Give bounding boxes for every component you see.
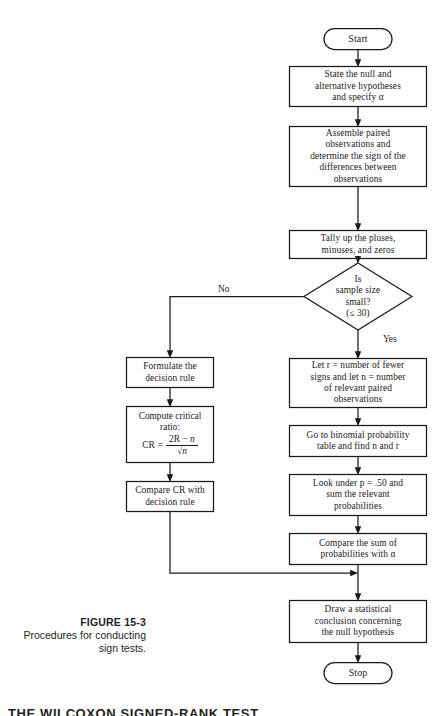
- node-critical-label: Compute critical ratio:: [127, 411, 213, 434]
- node-start-label: Start: [324, 28, 392, 50]
- formula-equals: =: [158, 440, 163, 451]
- node-comparesum-label: Compare the sum of probabilities with α: [290, 534, 426, 564]
- node-lookunder-label: Look under p = .50 and sum the relevant …: [290, 475, 426, 515]
- branch-label-no: No: [218, 284, 229, 294]
- figure-caption: FIGURE 15-3 Procedures for conducting si…: [16, 616, 146, 655]
- section-heading: THE WILCOXON SIGNED-RANK TEST: [8, 707, 438, 716]
- formula-lhs: CR: [142, 440, 155, 451]
- formula-radicand: n: [182, 446, 187, 456]
- formula-numerator-prefix: 2R −: [169, 434, 190, 444]
- formula-numerator: 2R − n: [166, 435, 198, 446]
- branch-label-yes: Yes: [383, 334, 397, 344]
- formula-numerator-var: n: [190, 434, 195, 444]
- node-comparecr-label: Compare CR with decision rule: [127, 482, 213, 511]
- node-tally-label: Tally up the pluses, minuses, and zeros: [290, 231, 426, 258]
- node-critical-ratio: Compute critical ratio: CR = 2R − n √n: [127, 411, 213, 457]
- edge-decision-formulate: [170, 297, 304, 355]
- formula-fraction: 2R − n √n: [166, 435, 198, 457]
- figure-number: FIGURE 15-3: [16, 616, 146, 628]
- critical-ratio-formula: CR = 2R − n √n: [127, 435, 213, 457]
- figure-description: Procedures for conducting sign tests.: [16, 629, 146, 655]
- node-assemble-label: Assemble paired observations and determi…: [290, 127, 426, 186]
- node-state-label: State the null and alternative hypothese…: [290, 67, 426, 106]
- node-decision-label: Is sample size small? (≤ 30): [306, 264, 410, 329]
- formula-denominator: √n: [174, 446, 190, 457]
- node-stop-label: Stop: [324, 662, 392, 684]
- node-formulate-label: Formulate the decision rule: [127, 358, 213, 387]
- node-letr-label: Let r = number of fewer signs and let n …: [290, 359, 426, 407]
- node-binomial-label: Go to binomial probability table and fin…: [290, 426, 426, 456]
- node-conclusion-label: Draw a statistical conclusion concerning…: [290, 601, 426, 642]
